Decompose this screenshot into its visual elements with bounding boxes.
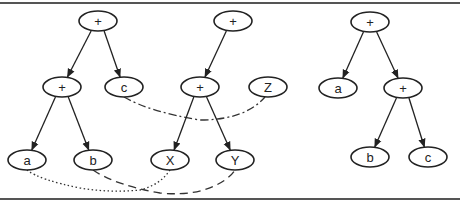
node-label: + xyxy=(229,14,237,29)
node-label: X xyxy=(166,153,175,168)
node-label: a xyxy=(23,153,31,168)
tree-node-middle-M1: + xyxy=(181,77,219,97)
tree-node-middle-M2: Z xyxy=(249,77,287,97)
diagram-canvas: ++cab++ZXY+a+bc xyxy=(0,0,460,201)
tree-node-right-R0: + xyxy=(351,12,389,32)
tree-node-left-L1: + xyxy=(43,77,81,97)
tree-node-right-R4: c xyxy=(409,147,447,167)
tree-node-middle-M0: + xyxy=(214,11,252,31)
tree-edge xyxy=(68,97,88,150)
node-label: c xyxy=(121,80,128,95)
node-label: + xyxy=(196,80,204,95)
tree-edge xyxy=(377,32,398,78)
tree-node-left-L2: c xyxy=(105,77,143,97)
tree-edge xyxy=(205,31,226,77)
tree-node-right-R2: + xyxy=(384,78,422,98)
tree-edge xyxy=(174,97,194,150)
tree-node-right-R3: b xyxy=(351,147,389,167)
correspondence-link-b-Y xyxy=(93,170,235,194)
tree-edge xyxy=(32,97,56,150)
node-label: + xyxy=(366,15,374,30)
node-label: Y xyxy=(231,153,240,168)
node-label: + xyxy=(58,80,66,95)
tree-node-left-L0: + xyxy=(79,11,117,31)
node-label: b xyxy=(89,153,96,168)
tree-node-left-L3: a xyxy=(8,150,46,170)
tree-edge xyxy=(409,98,424,147)
correspondence-link-c-Z xyxy=(124,97,265,120)
node-label: c xyxy=(425,150,432,165)
node-label: b xyxy=(366,150,373,165)
tree-node-left-L4: b xyxy=(74,150,112,170)
node-label: + xyxy=(399,81,407,96)
tree-node-middle-M4: Y xyxy=(216,150,254,170)
tree-edge xyxy=(375,98,397,147)
tree-edge xyxy=(207,97,231,150)
tree-edges xyxy=(32,31,425,150)
tree-node-middle-M3: X xyxy=(151,150,189,170)
tree-edge xyxy=(104,31,120,77)
tree-node-right-R1: a xyxy=(319,78,357,98)
correspondence-links xyxy=(27,97,265,194)
tree-nodes: ++cab++ZXY+a+bc xyxy=(8,11,447,170)
node-label: + xyxy=(94,14,102,29)
tree-edge xyxy=(67,31,91,77)
tree-edge xyxy=(343,32,364,78)
node-label: Z xyxy=(264,80,272,95)
node-label: a xyxy=(334,81,342,96)
